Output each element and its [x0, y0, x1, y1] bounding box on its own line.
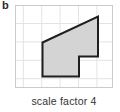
figure-label: b [2, 0, 9, 11]
figure-caption: scale factor 4 [11, 95, 117, 108]
grid-box [15, 5, 113, 88]
figure-b: b scale factor 4 [0, 0, 120, 112]
grid-svg [15, 5, 113, 88]
